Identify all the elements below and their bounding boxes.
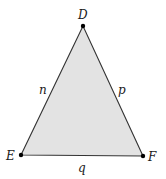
side-p-label: p	[118, 83, 126, 97]
side-n-label: n	[39, 83, 47, 97]
vertex-d-point	[81, 24, 85, 28]
vertex-e-label: E	[5, 149, 15, 163]
vertex-d-label: D	[77, 8, 88, 22]
triangle-diagram: D E F n p q	[0, 0, 166, 179]
side-q-label: q	[78, 161, 86, 175]
vertex-f-point	[141, 154, 145, 158]
vertex-e-point	[19, 153, 23, 157]
vertex-f-label: F	[147, 150, 157, 164]
